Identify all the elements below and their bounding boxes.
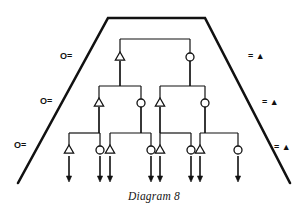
node-triangle-l2-2[interactable] [155,98,164,106]
right-input-label-3: = ▲ [274,142,291,152]
node-triangle-l3-2[interactable] [105,145,114,153]
output-arrow-head-7 [235,176,240,182]
right-input-label-2: = ▲ [262,97,279,107]
output-arrow-head-4 [157,176,162,182]
figure-caption: Diagram 8 [0,190,308,202]
output-arrow-head-2 [107,176,112,182]
node-circle-l2-1[interactable] [137,99,145,107]
left-input-label-1: O= [60,51,72,61]
node-triangle-l1-0[interactable] [115,52,124,60]
node-circle-l2-3[interactable] [201,99,209,107]
node-circle-l3-3[interactable] [147,146,155,154]
node-circle-l3-5[interactable] [187,146,195,154]
left-input-label-3: O= [14,140,26,150]
trapezoid-frame [18,18,290,183]
output-arrow-head-1 [97,176,102,182]
node-circle-l1-1[interactable] [186,53,194,61]
node-circle-l3-7[interactable] [234,146,242,154]
left-input-label-2: O= [40,96,52,106]
output-arrow-head-6 [197,176,202,182]
output-arrow-head-0 [66,176,71,182]
node-triangle-l3-6[interactable] [195,145,204,153]
node-triangle-l3-4[interactable] [155,145,164,153]
output-arrow-head-3 [148,176,153,182]
right-input-label-1: = ▲ [248,51,265,61]
output-arrow-head-5 [188,176,193,182]
node-triangle-l2-0[interactable] [94,98,103,106]
node-triangle-l3-0[interactable] [64,145,73,153]
diagram-svg [0,0,308,216]
diagram-canvas [0,0,308,216]
node-circle-l3-1[interactable] [96,146,104,154]
